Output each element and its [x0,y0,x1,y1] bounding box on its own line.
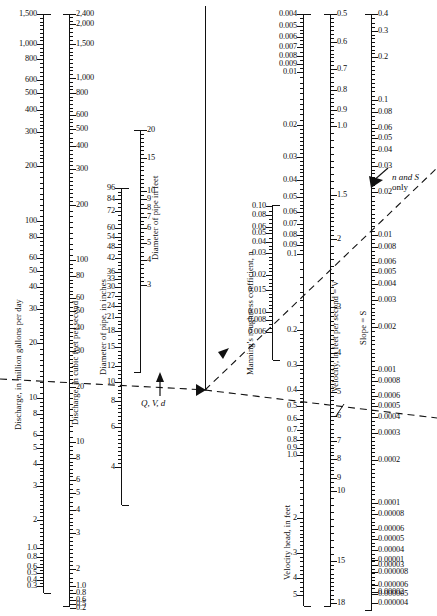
tick-major [115,228,121,229]
axis-title-mgd: Discharge, in million gallons per day [13,299,23,430]
pivot-index-line [205,6,206,390]
tick-label-cfs: 5 [76,489,80,497]
tick-major [297,125,303,126]
tick-label-mgd: 50 [29,267,37,275]
tick-minor [40,158,43,159]
tick-minor [40,279,43,280]
tick-minor [70,525,73,526]
tick-label-d-feet: 3 [147,281,151,289]
tick-minor [372,209,375,210]
tick-minor [300,120,303,121]
tick-minor [141,252,144,253]
tick-minor [118,459,121,460]
tick-minor [331,498,334,499]
tick-minor [300,537,303,538]
tick-minor [331,433,334,434]
tick-minor [40,376,43,377]
tick-major [266,312,272,313]
tick-label-slope: 0.001 [378,366,396,374]
tick-major [266,253,272,254]
tick-minor [331,140,334,141]
tick-minor [300,386,303,387]
tick-minor [70,518,73,519]
tick-minor [372,525,375,526]
tick-minor [40,199,43,200]
tick-minor [70,52,73,53]
tick-minor [40,317,43,318]
tick-minor [70,28,73,29]
tick-minor [331,50,334,51]
tick-minor [70,222,73,223]
tick-minor [141,166,144,167]
tick-minor [40,516,43,517]
tick-label-mgd: 3 [33,482,37,490]
tick-minor [269,308,272,309]
tick-minor [40,387,43,388]
tick-minor [269,257,272,258]
tick-minor [300,322,303,323]
tick-minor [331,396,334,397]
tick-minor [40,22,43,23]
tick-minor [300,40,303,41]
tick-minor [300,382,303,383]
tick-major [115,467,121,468]
tick-minor [300,487,303,488]
tick-label-velocity-head: 3 [293,549,297,557]
tick-label-d-inches: 42 [107,254,115,262]
tick-minor [372,239,375,240]
tick-minor [372,124,375,125]
tick-minor [372,344,375,345]
tick-minor [331,122,334,123]
tick-minor [70,82,73,83]
tick-minor [331,213,334,214]
tick-minor [300,566,303,567]
tick-label-velocity-head: 0.02 [283,121,297,129]
tick-minor [141,256,144,257]
tick-label-velocity-head: 0.2 [287,326,297,334]
tick-minor [372,83,375,84]
tick-major [297,553,303,554]
tick-major [115,279,121,280]
tick-minor [300,444,303,445]
tick-minor [70,549,73,550]
tick-minor [372,490,375,491]
qvd-arrowhead [156,372,164,382]
tick-minor [118,423,121,424]
tick-minor [118,374,121,375]
tick-minor [118,420,121,421]
tick-minor [331,114,334,115]
tick-minor [372,288,375,289]
tick-minor [300,334,303,335]
tick-minor [118,435,121,436]
tick-minor [372,349,375,350]
tick-minor [40,439,43,440]
tick-label-velocity: 1.5 [337,191,347,199]
tick-minor [70,283,73,284]
tick-minor [40,52,43,53]
tick-major [115,306,121,307]
tick-minor [331,578,334,579]
tick-label-slope: 0.008 [378,243,396,251]
tick-minor [372,464,375,465]
tick-minor [70,465,73,466]
axis-spine-manning-n [272,205,273,360]
tick-label-velocity: 0.7 [337,65,347,73]
tick-minor [40,229,43,230]
tick-minor [40,67,43,68]
tick-minor [300,83,303,84]
tick-major [37,287,43,288]
tick-minor [118,451,121,452]
tick-label-slope: 0.0001 [378,499,400,507]
tick-minor [331,540,334,541]
tick-minor [70,553,73,554]
tick-minor [372,108,375,109]
tick-minor [300,77,303,78]
tick-label-cfs: 2,400 [76,10,94,18]
tick-label-slope: 0.04 [378,146,392,154]
tick-minor [70,55,73,56]
tick-minor [300,161,303,162]
tick-minor [372,35,375,36]
tick-minor [70,537,73,538]
n-and-s-line2: only [392,182,408,192]
tick-label-slope: 0.0002 [378,456,400,464]
